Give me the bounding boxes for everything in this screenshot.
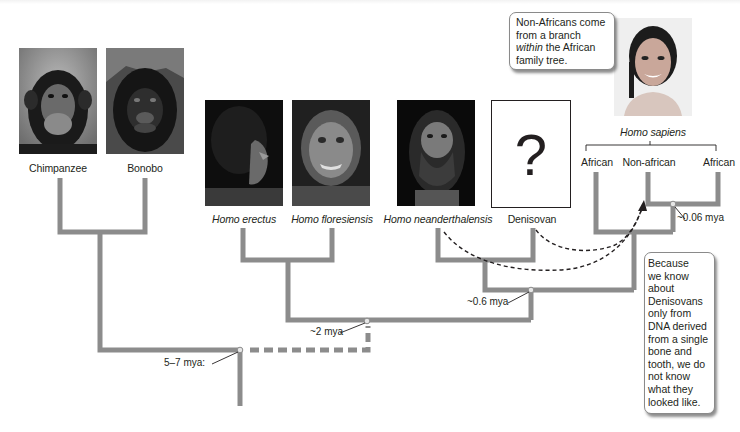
homo-erectus-photo [205, 100, 283, 206]
homo-sapiens-photo [614, 18, 692, 116]
branch-nonafrican-african2 [648, 172, 718, 204]
branch-erectus-floresiensis [243, 228, 332, 260]
uncertain-branch [250, 326, 368, 350]
bonobo-photo [106, 48, 184, 154]
label-african-2: African [698, 156, 740, 168]
label-bonobo: Bonobo [106, 162, 184, 174]
question-mark-icon: ? [515, 121, 547, 188]
branch-chimp-bonobo [60, 178, 145, 232]
callout-non-african: Non-Africans come from a branch within t… [509, 12, 615, 70]
label-homo-sapiens: Homo sapiens [608, 126, 698, 138]
branch-archaic-stem [485, 260, 634, 290]
label-non-african: Non-african [620, 156, 678, 168]
node-label-root: 5–7 mya: [164, 357, 205, 368]
label-homo-floresiensis: Homo floresiensis [284, 213, 380, 225]
denisovan-unknown-placeholder: ? [491, 100, 571, 208]
branch-pan-stem [100, 232, 240, 350]
node-root [237, 347, 243, 353]
node-archaic [528, 287, 534, 293]
homo-floresiensis-photo [292, 100, 370, 206]
node-label-archaic: ~0.6 mya [467, 296, 508, 307]
node-label-homo: ~2 mya [310, 326, 343, 337]
node-homo [364, 318, 370, 324]
homo-neanderthalensis-photo [397, 100, 475, 206]
branch-neanderthal-denisovan [438, 228, 533, 260]
label-chimpanzee: Chimpanzee [19, 162, 97, 174]
callout-denisovan: Because we know about Denisovans only fr… [644, 252, 715, 414]
node-label-sapiens: ~0.06 mya [677, 212, 724, 223]
sapiens-bracket [586, 141, 716, 151]
node-sapiens [670, 201, 676, 207]
label-homo-neanderthalensis: Homo neanderthalensis [381, 213, 495, 225]
label-homo-erectus: Homo erectus [199, 213, 289, 225]
tree-branches [60, 172, 718, 406]
label-denisovan: Denisovan [491, 213, 573, 225]
label-african-1: African [576, 156, 618, 168]
chimpanzee-photo [19, 48, 97, 154]
